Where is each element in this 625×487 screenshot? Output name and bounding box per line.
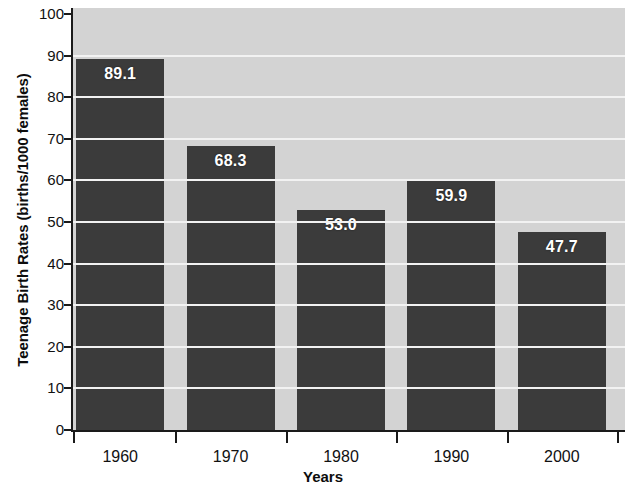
- gridline: [73, 179, 625, 181]
- y-axis-tick-label: 20: [22, 339, 64, 355]
- y-axis-tick-mark: [64, 221, 72, 223]
- bar-chart: Teenage Birth Rates (births/1000 females…: [0, 0, 625, 487]
- gridline: [73, 55, 625, 57]
- y-axis-tick-mark: [64, 387, 72, 389]
- bar-value-label: 68.3: [187, 152, 275, 170]
- x-axis-title: Years: [73, 468, 573, 486]
- x-axis-line: [71, 430, 625, 432]
- gridline: [73, 387, 625, 389]
- x-axis-tick-mark: [507, 432, 509, 443]
- gridline: [73, 304, 625, 306]
- y-axis-tick-label: 10: [22, 380, 64, 396]
- y-axis-tick-label: 60: [22, 172, 64, 188]
- bar-value-label: 59.9: [407, 187, 495, 205]
- bar: 53.0: [297, 210, 385, 430]
- gridline: [73, 138, 625, 140]
- x-axis-tick-mark: [396, 432, 398, 443]
- x-axis-tick-mark: [286, 432, 288, 443]
- plot-inner: 89.168.353.059.947.7: [73, 8, 625, 430]
- y-axis-tick-label: 90: [22, 48, 64, 64]
- gridline: [73, 346, 625, 348]
- gridline: [73, 96, 625, 98]
- y-axis-tick-mark: [64, 55, 72, 57]
- y-axis-tick-mark: [64, 304, 72, 306]
- x-axis-tick-label: 1970: [176, 447, 286, 467]
- plot-area: 89.168.353.059.947.7: [73, 8, 625, 430]
- y-axis-tick-label: 40: [22, 256, 64, 272]
- x-axis-tick-mark: [73, 432, 75, 443]
- bar-value-label: 89.1: [76, 65, 164, 83]
- x-axis-tick-label: 1980: [286, 447, 396, 467]
- y-axis-tick-label: 70: [22, 131, 64, 147]
- y-axis-tick-label: 100: [22, 6, 64, 22]
- bar-value-label: 53.0: [297, 216, 385, 234]
- y-axis-tick-mark: [64, 429, 72, 431]
- y-axis-tick-mark: [64, 138, 72, 140]
- bar: 47.7: [518, 232, 606, 430]
- y-axis-tick-label: 30: [22, 297, 64, 313]
- y-axis-tick-label: 50: [22, 214, 64, 230]
- bar: 89.1: [76, 59, 164, 430]
- y-axis-tick-mark: [64, 96, 72, 98]
- y-axis-tick-labels: 0102030405060708090100: [22, 0, 64, 487]
- x-axis-tick-label: 1960: [65, 447, 175, 467]
- gridline: [73, 263, 625, 265]
- gridline: [73, 221, 625, 223]
- bars-layer: 89.168.353.059.947.7: [73, 8, 625, 430]
- y-axis-tick-mark: [64, 346, 72, 348]
- x-axis-tick-label: 1990: [396, 447, 506, 467]
- y-axis-tick-mark: [64, 13, 72, 15]
- bar-value-label: 47.7: [518, 238, 606, 256]
- x-axis-tick-label: 2000: [507, 447, 617, 467]
- y-axis-tick-mark: [64, 263, 72, 265]
- y-axis-tick-label: 80: [22, 89, 64, 105]
- y-axis-tick-mark: [64, 179, 72, 181]
- y-axis-tick-label: 0: [22, 422, 64, 438]
- x-axis-tick-mark: [617, 432, 619, 443]
- x-axis-tick-mark: [175, 432, 177, 443]
